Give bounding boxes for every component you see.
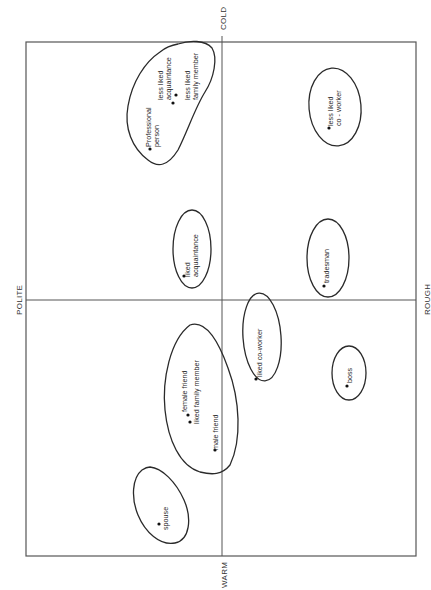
label-liked-coworker: liked co-worker (255, 328, 264, 377)
label-male-friend: male friend (211, 414, 220, 450)
label-less-liked-coworker: less liked co - worker (326, 90, 343, 126)
axis-label-warm: WARM (220, 562, 229, 588)
label-professional-person: Professional person (144, 105, 161, 147)
axis-label-rough: ROUGH (423, 284, 431, 315)
label-female-friend: female friend (180, 370, 189, 412)
point-boss (345, 384, 348, 387)
plot-frame (26, 42, 416, 556)
point-less-liked-family-member (174, 93, 177, 96)
perceptual-map: COLD WARM POLITE ROUGH Professional pers… (0, 0, 431, 590)
cluster-outline-friends (164, 324, 238, 474)
label-liked-acquaintance: liked acquaintance (183, 234, 200, 277)
cluster-outline-spouse (133, 467, 188, 543)
label-spouse: spouse (161, 507, 170, 530)
label-tradesman: tradesman (322, 249, 331, 283)
axis-label-cold: COLD (219, 7, 228, 30)
label-less-liked-family-member: less liked family member (183, 52, 200, 100)
point-tradesman (322, 284, 325, 287)
label-boss: boss (345, 367, 354, 383)
label-liked-family-member: liked family member (192, 359, 201, 424)
label-less-liked-acquaintance: less liked acquaintance (156, 57, 173, 100)
axis-label-polite: POLITE (15, 285, 24, 315)
point-female-friend (186, 413, 189, 416)
point-less-liked-acquaintance (171, 101, 174, 104)
